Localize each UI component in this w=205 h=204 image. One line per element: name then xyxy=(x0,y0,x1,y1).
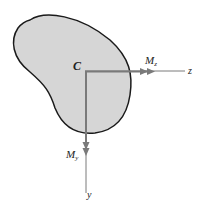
moment-z-arrowhead-2 xyxy=(147,68,155,75)
cross-section-diagram: C Mz z My y xyxy=(0,0,205,204)
centroid-label: C xyxy=(73,59,82,73)
moment-y-label: My xyxy=(65,148,79,162)
moment-y-arrowhead-2 xyxy=(83,148,90,156)
cross-section-shape xyxy=(14,15,131,133)
moment-z-arrowhead-1 xyxy=(140,68,148,75)
y-axis-label: y xyxy=(86,189,92,200)
moment-z-label: Mz xyxy=(144,54,157,68)
z-axis-label: z xyxy=(187,65,192,76)
